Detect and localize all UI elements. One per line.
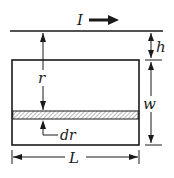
diagram-canvas: I r dr h w [0, 0, 174, 178]
l-label: L [68, 149, 79, 167]
h-label: h [156, 38, 166, 56]
current-label: I [76, 11, 84, 29]
current-direction-arrow-icon [89, 15, 119, 25]
r-label: r [38, 69, 46, 87]
dr-indicator-arrow [40, 120, 58, 135]
w-label: w [143, 95, 156, 113]
dr-label: dr [60, 127, 77, 143]
hatched-strip [13, 111, 138, 119]
